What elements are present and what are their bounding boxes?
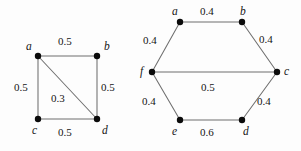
vertex-f [149, 69, 155, 75]
vertex-d [239, 117, 245, 123]
edge-weight-e-f: 0.4 [142, 96, 156, 107]
edge-weight-d-e: 0.6 [200, 127, 214, 138]
edge-weight-a-d: 0.3 [51, 93, 65, 104]
vertex-label-d: d [243, 126, 249, 138]
vertex-b [94, 53, 100, 59]
vertex-label-c: c [284, 66, 289, 78]
edges-layer [38, 22, 277, 120]
vertex-label-a: a [172, 6, 178, 18]
edge-b-c [242, 22, 277, 72]
vertex-c [274, 69, 280, 75]
edge-a-d [38, 56, 97, 119]
vertex-label-c: c [32, 125, 37, 137]
edge-f-a [152, 22, 180, 72]
edge-weight-f-c: 0.5 [201, 82, 215, 93]
edge-weight-c-d: 0.5 [58, 127, 72, 138]
vertex-a [35, 53, 41, 59]
vertex-label-b: b [240, 6, 246, 18]
edge-e-f [152, 72, 180, 120]
vertex-e [177, 117, 183, 123]
vertex-label-b: b [104, 41, 110, 53]
edge-weight-a-b: 0.4 [200, 6, 214, 17]
vertex-c [35, 116, 41, 122]
graph-figure: 0.50.50.50.50.3abcd0.40.40.40.60.40.40.5… [0, 0, 301, 151]
vertex-d [94, 116, 100, 122]
vertex-label-a: a [26, 41, 32, 53]
vertex-label-d: d [102, 125, 108, 137]
edge-weight-b-d: 0.5 [101, 82, 115, 93]
edge-weight-a-b: 0.5 [58, 36, 72, 47]
vertex-a [177, 19, 183, 25]
vertex-label-f: f [140, 66, 143, 78]
edge-weight-f-a: 0.4 [143, 35, 157, 46]
graph-canvas [0, 0, 301, 151]
vertex-label-e: e [172, 126, 177, 138]
edge-weight-c-d: 0.4 [257, 96, 271, 107]
vertex-b [239, 19, 245, 25]
edge-weight-b-c: 0.4 [259, 34, 273, 45]
edge-weight-a-c: 0.5 [14, 82, 28, 93]
